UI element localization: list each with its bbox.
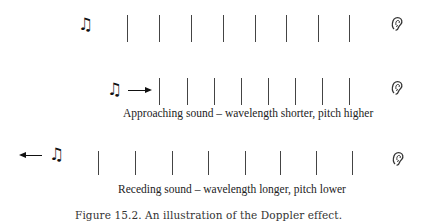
wavefront-line [255,15,256,42]
wavefront-line [352,151,353,175]
wavefront-line [349,78,350,105]
ear-icon [391,151,405,167]
wavefront-line [98,151,99,175]
music-note-icon: ♫ [78,16,93,33]
ear-icon [390,80,404,96]
music-note-icon: ♫ [49,146,64,163]
wavefront-line [127,15,128,42]
wavefront-line [172,151,173,175]
wavefront-line [208,151,209,175]
wavefront-line [159,15,160,42]
wavefront-line [316,151,317,175]
ear-icon [390,16,404,32]
arrow-right-head [145,87,152,93]
wavefront-line [349,15,350,42]
figure-caption: Figure 15.2. An illustration of the Dopp… [75,209,342,221]
receding-label: Receding sound – wavelength longer, pitc… [118,183,346,195]
wavefront-line [191,15,192,42]
wavefront-line [223,15,224,42]
wavefront-line [295,78,296,105]
wavefront-line [322,78,323,105]
wavefront-line [214,78,215,105]
wavefront-line [318,15,319,42]
arrow-right-icon [128,90,146,91]
music-note-icon: ♫ [107,81,122,98]
arrow-left-icon [25,155,42,156]
wavefront-line [241,78,242,105]
wavefront-line [286,15,287,42]
wavefront-line [159,78,160,105]
wavefront-line [245,151,246,175]
wavefront-line [268,78,269,105]
wavefront-line [135,151,136,175]
wavefront-line [280,151,281,175]
approaching-label: Approaching sound – wavelength shorter, … [123,107,373,119]
wavefront-line [187,78,188,105]
